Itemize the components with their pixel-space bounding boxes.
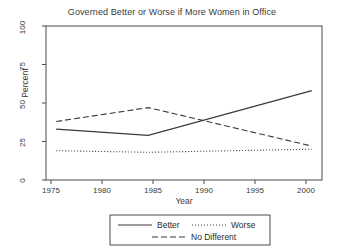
x-tick-marks (51, 180, 306, 184)
legend-label-better: Better (157, 220, 180, 230)
y-tick-marks (42, 26, 46, 180)
series-line-no-different (56, 108, 312, 147)
chart-figure: Governed Better or Worse if More Women i… (0, 0, 344, 252)
plot-frame (46, 26, 322, 180)
series-line-better (56, 91, 312, 136)
legend-label-no-different: No Different (191, 232, 236, 242)
series-line-worse (56, 149, 312, 152)
plot-area (0, 0, 344, 252)
legend-label-worse: Worse (231, 220, 255, 230)
